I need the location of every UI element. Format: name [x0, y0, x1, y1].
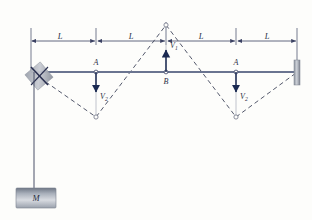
mass-label: M — [31, 193, 40, 203]
force-subscript-v2-left: 2 — [105, 96, 108, 102]
dimension-label-2: L — [128, 31, 134, 41]
hanging-mass-block: M — [16, 188, 56, 208]
node-label-a-left: A — [93, 58, 99, 67]
force-subscript-v1-center: 1 — [175, 45, 178, 51]
figure-canvas: L L L L M — [0, 0, 312, 220]
right-fixed-support — [294, 60, 300, 85]
dimension-label-3: L — [198, 31, 204, 41]
dimension-label-4: L — [264, 31, 270, 41]
apex-marker-crest-center — [164, 23, 168, 27]
apex-marker-trough-left — [94, 115, 98, 119]
force-subscript-v2-right: 2 — [245, 96, 248, 102]
force-label-v1-center-group: V1 — [170, 41, 178, 51]
force-label-v2-left-group: V2 — [100, 92, 108, 102]
beam-deflection-figure: L L L L M — [0, 0, 312, 220]
apex-marker-trough-right — [234, 115, 238, 119]
dimension-extension-lines — [31, 22, 297, 72]
left-pin-support — [25, 62, 53, 90]
node-label-a-right: A — [233, 58, 239, 67]
dimension-label-1: L — [57, 31, 63, 41]
force-label-v2-right-group: V2 — [240, 92, 248, 102]
node-label-b-center: B — [164, 77, 169, 86]
